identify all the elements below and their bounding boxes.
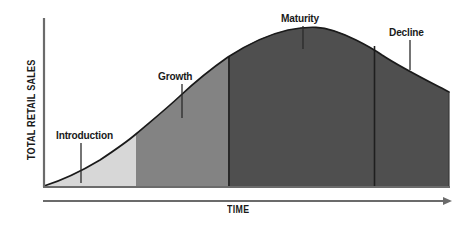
band-introduction bbox=[44, 0, 136, 227]
stage-label-growth: Growth bbox=[158, 71, 192, 83]
stage-label-introduction: Introduction bbox=[56, 130, 113, 142]
y-axis-title: TOTAL RETAIL SALES bbox=[24, 43, 40, 160]
band-maturity bbox=[228, 0, 374, 227]
x-axis-title: TIME bbox=[227, 205, 249, 215]
stage-label-decline: Decline bbox=[389, 27, 424, 39]
stage-label-maturity: Maturity bbox=[281, 13, 319, 25]
product-life-cycle-chart: TOTAL RETAIL SALES Introduction Growth M… bbox=[0, 0, 474, 227]
